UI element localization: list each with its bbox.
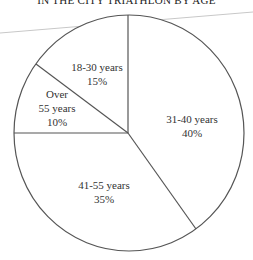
slice-value: 40% bbox=[152, 126, 232, 140]
slice-value: 35% bbox=[64, 192, 144, 206]
slice-value: 10% bbox=[27, 115, 87, 129]
slice-name: 18-30 years bbox=[62, 60, 132, 74]
slice-label-41-55: 41-55 years 35% bbox=[64, 178, 144, 206]
slice-value: 15% bbox=[62, 74, 132, 88]
slice-name: 31-40 years bbox=[152, 112, 232, 126]
slice-name: Over bbox=[27, 87, 87, 101]
slice-name: 55 years bbox=[27, 101, 87, 115]
slice-label-18-30: 18-30 years 15% bbox=[62, 60, 132, 88]
slice-label-31-40: 31-40 years 40% bbox=[152, 112, 232, 140]
slice-label-over-55: Over 55 years 10% bbox=[27, 87, 87, 129]
slice-name: 41-55 years bbox=[64, 178, 144, 192]
